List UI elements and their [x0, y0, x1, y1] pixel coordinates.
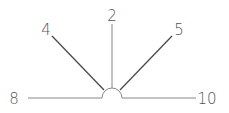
label-4: 4	[41, 21, 51, 39]
ray-fan-diagram: 8 4 2 5 10	[0, 0, 229, 113]
label-5: 5	[174, 21, 184, 39]
ray-4-line	[52, 36, 104, 90]
hub-semicircle	[102, 88, 122, 98]
label-8: 8	[9, 90, 19, 108]
label-2: 2	[107, 7, 117, 25]
label-10: 10	[197, 90, 216, 108]
ray-5-line	[120, 36, 172, 90]
